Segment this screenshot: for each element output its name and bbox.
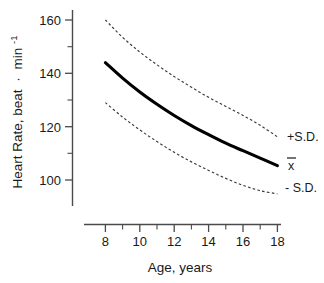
y-tick-label-100: 100 xyxy=(39,173,61,188)
y-axis-title-separator: · xyxy=(10,77,25,82)
x-tick-label-8: 8 xyxy=(102,234,109,249)
curve-minus-sd xyxy=(105,103,277,194)
series-label-minus-sd: - S.D. xyxy=(285,181,317,195)
y-axis-title-group: Heart Rate, beat · min -1 xyxy=(8,35,25,188)
series-label-mean-group: x xyxy=(287,158,296,173)
chart-figure: 160 140 120 100 Heart Rate, beat · min -… xyxy=(0,0,324,283)
series-label-mean: x xyxy=(288,159,295,173)
x-tick-label-14: 14 xyxy=(201,234,215,249)
y-axis-title-unit: min xyxy=(10,48,25,70)
y-tick-label-140: 140 xyxy=(39,66,61,81)
y-axis-title-exponent: -1 xyxy=(8,35,19,43)
x-axis-title: Age, years xyxy=(148,260,213,275)
y-axis-group: 160 140 120 100 xyxy=(39,10,72,206)
x-tick-label-16: 16 xyxy=(236,234,250,249)
y-axis-title: Heart Rate, beat · min -1 xyxy=(8,35,25,188)
y-tick-label-120: 120 xyxy=(39,120,61,135)
curve-plus-sd xyxy=(105,20,277,137)
series-label-plus-sd: +S.D. xyxy=(287,130,319,144)
x-axis-group: 8 10 12 14 16 18 xyxy=(84,225,285,250)
x-tick-label-12: 12 xyxy=(167,234,181,249)
y-axis-title-main: Heart Rate, beat xyxy=(10,89,25,188)
y-tick-label-160: 160 xyxy=(39,13,61,28)
x-tick-label-18: 18 xyxy=(270,234,284,249)
curve-mean xyxy=(105,63,277,166)
chart-canvas: 160 140 120 100 Heart Rate, beat · min -… xyxy=(0,0,324,283)
x-tick-label-10: 10 xyxy=(133,234,147,249)
